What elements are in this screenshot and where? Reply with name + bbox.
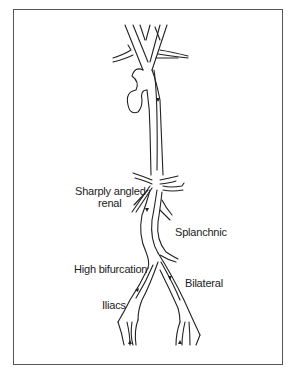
label-sharply-angled-renal: Sharply angled renal	[75, 185, 146, 209]
label-bilateral: Bilateral	[185, 277, 223, 289]
label-splanchnic: Splanchnic	[175, 226, 227, 238]
label-renal-line1: Sharply angled	[75, 185, 146, 197]
label-iliacs: Iliacs	[102, 299, 126, 311]
label-renal-line2: renal	[75, 197, 146, 209]
label-high-bifurcation: High bifurcation	[74, 263, 147, 275]
aorta-illustration	[0, 0, 292, 373]
